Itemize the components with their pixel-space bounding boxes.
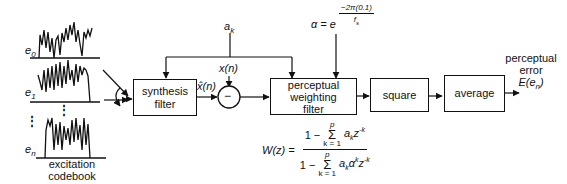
block-diagram: e0 e1 en ⋮ ⋮ excitation codebook ak x(n)… (0, 0, 567, 184)
ellipsis-icon: ⋮ (26, 115, 38, 127)
ak-label: ak (224, 20, 234, 37)
wz-formula: W(z) = 1 − p Σ k = 1 akz-k 1 − p Σ k = 1… (262, 121, 372, 178)
codebook-waveforms (30, 22, 106, 158)
output-label: perceptual error E(en) (495, 52, 567, 93)
num-one: 1 − (305, 129, 321, 141)
alpha-exp-num: −2π(0.1) (339, 3, 374, 14)
xhat-label: x̂(n) (197, 80, 216, 92)
codebook-entry-e0: e0 (25, 44, 36, 61)
block-label: filter (288, 103, 339, 115)
block-label: filter (142, 98, 188, 111)
sum-bottom: k = 1 (318, 170, 336, 178)
codebook-entry-e1: e1 (25, 86, 36, 103)
output-close: ) (540, 76, 544, 88)
fs-subscript: s (356, 20, 359, 26)
output-symbol: E(e (518, 76, 535, 88)
den-one: 1 − (300, 159, 316, 171)
block-label: average (455, 87, 495, 100)
square-block: square (370, 78, 429, 112)
xn-label: x(n) (219, 62, 238, 74)
subtract-symbol: − (224, 90, 231, 102)
formula-fraction: 1 − p Σ k = 1 akz-k 1 − p Σ k = 1 akαkz-… (298, 121, 372, 178)
num-z-sup: -k (359, 127, 365, 134)
codebook-label: excitation codebook (36, 158, 108, 182)
codebook-label-line1: excitation (36, 158, 108, 170)
block-label: square (383, 89, 417, 102)
block-label: weighting (288, 91, 339, 103)
alpha-lhs: α = e (311, 18, 336, 30)
alpha-exp-den: fs (352, 14, 361, 28)
den-z-sup: -k (364, 157, 370, 164)
codebook-entry-en: en (25, 143, 36, 160)
entry-subscript: 1 (31, 92, 35, 101)
ellipsis-icon: ⋮ (58, 104, 70, 116)
alpha-label: α = e −2π(0.1) fs (311, 12, 374, 37)
entry-subscript: 0 (31, 50, 35, 59)
formula-denominator: 1 − p Σ k = 1 akαkz-k (298, 150, 372, 178)
sum-operator: p Σ k = 1 (318, 151, 336, 178)
output-line2: error (495, 64, 567, 76)
sum-bottom: k = 1 (323, 140, 341, 148)
synthesis-filter-block: synthesis filter (133, 79, 197, 116)
output-line3: E(en) (495, 76, 567, 93)
perceptual-weighting-filter-block: perceptual weighting filter (270, 78, 357, 115)
entry-subscript: n (31, 149, 35, 158)
output-line1: perceptual (495, 52, 567, 64)
alpha-exponent: −2π(0.1) fs (339, 3, 374, 28)
formula-lhs: W(z) = (262, 144, 295, 156)
ak-subscript: k (230, 26, 234, 35)
block-label: synthesis (142, 85, 188, 98)
formula-numerator: 1 − p Σ k = 1 akz-k (303, 121, 367, 150)
codebook-label-line2: codebook (36, 170, 108, 182)
sum-operator: p Σ k = 1 (323, 121, 341, 148)
block-label: perceptual (288, 79, 339, 91)
